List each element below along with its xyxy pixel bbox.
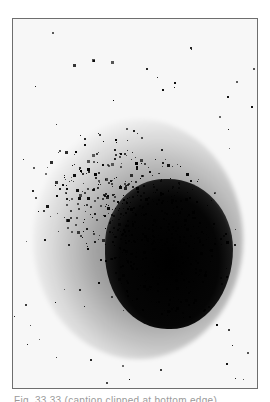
scan-image-frame: [12, 18, 258, 389]
figure-caption: Fig. 33.33 (caption clipped at bottom ed…: [14, 394, 264, 402]
speckle-noise: [13, 19, 257, 388]
